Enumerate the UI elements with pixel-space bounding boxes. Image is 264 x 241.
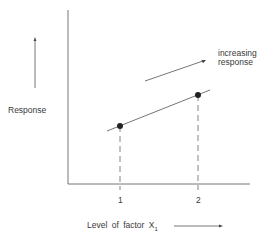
tick-label-1: 1 [118,196,123,205]
diagram-canvas [0,0,264,241]
response-up-arrow-icon [34,37,37,88]
x-direction-arrow-icon [174,225,223,228]
x-axis-label-subscript: 1 [154,226,157,232]
data-point-1 [117,123,123,129]
annotation-line-2: response [218,58,257,67]
x-axis-label: Level of factor X1 [87,221,158,230]
data-point-2 [195,92,201,98]
x-axis-label-text: Level of factor X [87,220,154,230]
increasing-arrow-icon [145,60,206,81]
y-axis-label: Response [8,106,46,115]
annotation-label: increasing response [218,49,257,67]
tick-label-2: 2 [196,196,201,205]
